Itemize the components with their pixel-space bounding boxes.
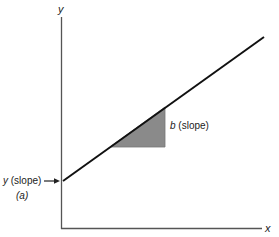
slope-label-text: (slope) [176, 120, 209, 131]
slope-label: b (slope) [170, 121, 209, 131]
intercept-sublabel: (a) [16, 191, 28, 201]
intercept-label-text: (slope) [8, 175, 41, 186]
intercept-label: y (slope) [3, 176, 41, 186]
y-axis-label: y [58, 4, 64, 15]
regression-diagram [0, 0, 279, 237]
x-axis-label: x [265, 223, 271, 234]
intercept-arrow-icon [44, 178, 60, 183]
regression-line [63, 37, 264, 181]
